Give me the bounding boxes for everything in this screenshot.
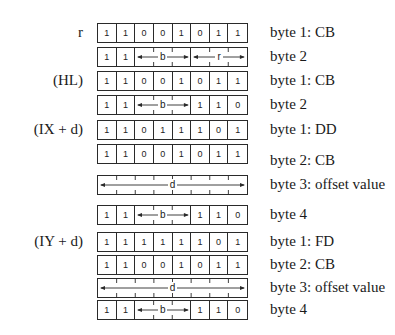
bit-cell: 1 xyxy=(117,48,136,66)
field-letter: b xyxy=(135,206,190,224)
bit-cell: 0 xyxy=(210,233,229,251)
byte-box: d xyxy=(97,175,248,195)
bit-cell: 1 xyxy=(191,121,210,139)
encoding-row: 11brbyte 2 xyxy=(0,47,395,66)
bit-cell: 0 xyxy=(135,72,154,90)
bit-field-b: b xyxy=(135,48,191,66)
encoding-row: r11001011byte 1: CB xyxy=(0,23,395,42)
bit-cell: 1 xyxy=(228,121,247,139)
bit-field-d: d xyxy=(98,176,247,194)
bit-cell: 1 xyxy=(228,24,247,42)
byte-box: 11011101 xyxy=(97,120,248,140)
bit-cell: 1 xyxy=(98,24,117,42)
bit-cell: 0 xyxy=(228,301,247,319)
bit-cell: 1 xyxy=(210,145,229,163)
operand-label: (IX + d) xyxy=(34,120,83,139)
encoding-row: 11001011byte 2: CB xyxy=(0,144,395,163)
bit-cell: 1 xyxy=(210,256,229,274)
byte-box: 11001011 xyxy=(97,23,248,43)
bit-cell: 0 xyxy=(210,121,229,139)
field-letter-text: d xyxy=(168,282,178,293)
bit-cell: 1 xyxy=(154,233,173,251)
operand-label: r xyxy=(78,23,83,42)
encoding-row: 11001011byte 2: CB xyxy=(0,255,395,274)
bit-cell: 0 xyxy=(154,256,173,274)
field-letter: r xyxy=(191,48,247,66)
bit-cell: 1 xyxy=(98,233,117,251)
bit-cell: 1 xyxy=(117,233,136,251)
encoding-row: dbyte 3: offset value xyxy=(0,175,395,194)
operand-label: (HL) xyxy=(53,71,83,90)
bit-cell: 1 xyxy=(117,24,136,42)
bit-cell: 1 xyxy=(154,121,173,139)
byte-label: byte 1: CB xyxy=(270,23,335,42)
bit-cell: 0 xyxy=(191,72,210,90)
bit-cell: 1 xyxy=(191,206,210,224)
encoding-row: (IY + d)11111101byte 1: FD xyxy=(0,232,395,251)
bit-cell: 1 xyxy=(98,256,117,274)
bit-cell: 1 xyxy=(117,72,136,90)
bit-cell: 1 xyxy=(210,206,229,224)
field-letter: d xyxy=(98,176,247,194)
bit-cell: 1 xyxy=(117,145,136,163)
field-letter-text: b xyxy=(158,209,168,220)
encoding-row: 11b110byte 4 xyxy=(0,205,395,224)
bit-cell: 1 xyxy=(210,72,229,90)
bit-cell: 1 xyxy=(98,72,117,90)
bit-cell: 0 xyxy=(228,96,247,114)
encoding-row: dbyte 3: offset value xyxy=(0,278,395,297)
byte-box: 11b110 xyxy=(97,205,248,225)
byte-label: byte 1: CB xyxy=(270,71,335,90)
bit-cell: 0 xyxy=(135,121,154,139)
bit-cell: 0 xyxy=(191,145,210,163)
field-letter-text: b xyxy=(158,304,168,315)
bit-cell: 1 xyxy=(173,24,192,42)
bit-cell: 1 xyxy=(117,301,136,319)
byte-label: byte 3: offset value xyxy=(270,278,385,297)
byte-label: byte 2: CB xyxy=(270,255,335,274)
field-letter: d xyxy=(98,279,247,297)
field-letter-text: d xyxy=(168,179,178,190)
bit-cell: 1 xyxy=(228,145,247,163)
bit-cell: 1 xyxy=(228,256,247,274)
field-letter: b xyxy=(135,301,190,319)
bit-cell: 1 xyxy=(98,48,117,66)
bit-field-b: b xyxy=(135,301,191,319)
field-letter-text: b xyxy=(158,99,168,110)
bit-cell: 0 xyxy=(228,206,247,224)
bit-cell: 1 xyxy=(173,121,192,139)
bit-cell: 1 xyxy=(228,233,247,251)
byte-label: byte 1: DD xyxy=(270,120,337,139)
bit-cell: 1 xyxy=(135,233,154,251)
bit-cell: 1 xyxy=(98,206,117,224)
byte-box: d xyxy=(97,278,248,298)
byte-box: 11b110 xyxy=(97,95,248,115)
byte-label: byte 3: offset value xyxy=(270,175,385,194)
encoding-row: (IX + d)11011101byte 1: DD xyxy=(0,120,395,139)
bit-cell: 1 xyxy=(173,72,192,90)
bit-cell: 1 xyxy=(117,121,136,139)
bit-field-b: b xyxy=(135,206,191,224)
field-letter-text: r xyxy=(215,51,222,62)
bit-cell: 1 xyxy=(173,145,192,163)
byte-box: 11001011 xyxy=(97,255,248,275)
byte-label: byte 2: CB xyxy=(270,151,335,170)
bit-field-b: b xyxy=(135,96,191,114)
field-letter-text: b xyxy=(158,51,168,62)
byte-label: byte 1: FD xyxy=(270,232,334,251)
bit-cell: 1 xyxy=(191,96,210,114)
field-letter: b xyxy=(135,96,190,114)
bit-cell: 1 xyxy=(98,145,117,163)
encoding-row: 11b110byte 4 xyxy=(0,300,395,319)
byte-label: byte 2 xyxy=(270,95,307,114)
byte-box: 11001011 xyxy=(97,71,248,91)
encoding-row: 11b110byte 2 xyxy=(0,95,395,114)
bit-cell: 1 xyxy=(191,301,210,319)
bit-cell: 1 xyxy=(173,233,192,251)
bit-cell: 0 xyxy=(154,145,173,163)
bit-cell: 1 xyxy=(228,72,247,90)
byte-box: 11br xyxy=(97,47,248,67)
bit-cell: 1 xyxy=(98,96,117,114)
bit-cell: 1 xyxy=(210,301,229,319)
byte-label: byte 2 xyxy=(270,47,307,66)
